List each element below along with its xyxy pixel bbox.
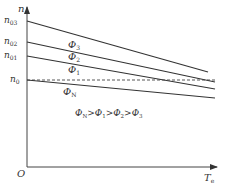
svg-text:Φ3: Φ3 (68, 39, 80, 51)
x-axis-label: Te (204, 172, 215, 184)
svg-text:n02: n02 (4, 36, 18, 47)
svg-text:n0: n0 (10, 74, 20, 85)
svg-text:Φ1: Φ1 (68, 64, 80, 76)
label-phi3: Φ3 (68, 39, 80, 51)
svg-text:n01: n01 (4, 50, 17, 61)
flux-relation: ΦN>Φ1>Φ2>Φ3 (75, 108, 143, 119)
svg-text:ΦN: ΦN (63, 86, 76, 98)
y-tick-n01: n01 (4, 50, 17, 61)
svg-text:n03: n03 (4, 15, 18, 26)
curve-phi3 (27, 21, 208, 72)
y-tick-n0: n0 (10, 74, 20, 85)
y-tick-n02: n02 (4, 36, 18, 47)
svg-text:Te: Te (204, 172, 215, 184)
label-phiN: ΦN (63, 86, 76, 98)
label-phi1: Φ1 (68, 64, 80, 76)
speed-torque-diagram: n O Te n03 n02 n01 n0 Φ3 Φ2 Φ1 ΦN ΦN>Φ1>… (0, 0, 226, 189)
y-axis-label: n (18, 3, 24, 14)
y-tick-n03: n03 (4, 15, 18, 26)
svg-text:ΦN>Φ1>Φ2>Φ3: ΦN>Φ1>Φ2>Φ3 (75, 108, 143, 119)
curve-phiN (27, 80, 215, 98)
origin-label: O (17, 168, 25, 179)
curve-phi1 (27, 56, 215, 89)
